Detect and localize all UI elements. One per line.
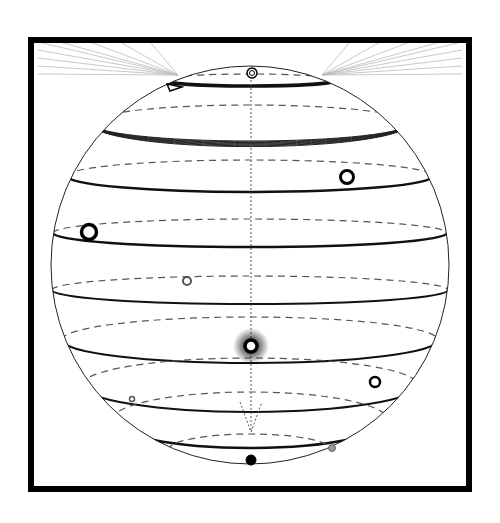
lat-5-front [52, 290, 448, 304]
sphere-circle [51, 66, 449, 464]
diagram-canvas [0, 0, 500, 523]
frame-rect [31, 40, 469, 489]
sphere-diagram [0, 0, 500, 523]
lat-4-back [53, 219, 447, 233]
lat-1-front [162, 80, 338, 86]
ray-line [38, 50, 178, 75]
ray-line [38, 42, 178, 75]
orbit-point-3-icon [183, 277, 191, 285]
center-highlight-icon [245, 340, 257, 352]
ray-line [322, 74, 462, 75]
ray-line [38, 74, 178, 75]
orbit-point-5-icon [130, 397, 135, 402]
ray-line [322, 42, 440, 75]
lat-4-front [53, 233, 447, 247]
sphere-outline [51, 66, 449, 464]
lat-2-back [90, 105, 410, 123]
lat-8-back [112, 392, 388, 420]
ray-line [38, 58, 178, 75]
ray-line [60, 42, 178, 75]
north-pole-marker-icon [247, 68, 257, 78]
south-pole-marker-icon [246, 455, 256, 465]
lat-3-back [67, 160, 433, 176]
orbit-point-2-icon [82, 225, 97, 240]
ray-line [322, 58, 462, 75]
ray-line [322, 42, 462, 75]
frame-border [31, 40, 469, 489]
gray-point-icon [329, 445, 336, 452]
ray-line [322, 50, 462, 75]
polar-axis [240, 72, 262, 432]
orbit-point-4-icon [370, 377, 380, 387]
lat-5-back [52, 276, 448, 290]
orbit-point-1-icon [341, 171, 354, 184]
orbit-markers [82, 68, 381, 465]
lat-3-front [67, 176, 433, 192]
